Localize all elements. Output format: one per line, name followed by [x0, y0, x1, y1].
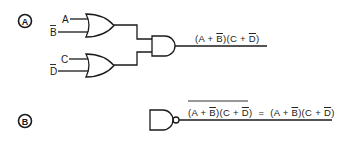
logic-diagram: A B A B C D (A + B)(C + D) (A + B)(C + D… [0, 0, 347, 148]
expr-a-part-1: (A + [195, 33, 216, 44]
expr-b-lhs-part-3: ) [249, 107, 252, 118]
input-label-b-bar: B [50, 27, 57, 38]
and-gate [152, 36, 175, 56]
svg-text:(A + B)(C + D): (A + B)(C + D) [195, 33, 259, 44]
expr-b-rhs-b-bar: B [292, 107, 299, 118]
wire-or2-to-and [114, 52, 152, 65]
nand-gate [150, 110, 173, 130]
expr-b-lhs-d-bar: D [242, 107, 249, 118]
or-gate-1 [86, 14, 114, 37]
input-label-c: C [61, 54, 68, 65]
expr-b-rhs-part-3: ) [331, 107, 334, 118]
expr-b-rhs-part-1: (A + [270, 107, 291, 118]
expr-a-d-bar: D [249, 33, 256, 44]
expr-b-equals: = [258, 107, 264, 118]
expr-a-part-2: )(C + [223, 33, 249, 44]
expr-b-rhs-part-2: )(C + [298, 107, 324, 118]
output-expression-b: (A + B)(C + D) = (A + B)(C + D) [188, 107, 335, 118]
expr-b-lhs-part-2: )(C + [216, 107, 242, 118]
or-gate-2 [86, 54, 114, 77]
input-label-d-bar: D [50, 66, 57, 77]
output-expression-a: (A + B)(C + D) [195, 33, 259, 44]
expr-b-lhs-b-bar: B [209, 107, 216, 118]
expr-b-rhs-d-bar: D [324, 107, 331, 118]
expr-a-part-3: ) [256, 33, 259, 44]
wire-or1-to-and [114, 25, 152, 39]
part-b-label: B [22, 117, 29, 127]
input-label-a: A [62, 14, 69, 25]
expr-b-lhs-part-1: (A + [188, 107, 209, 118]
nand-bubble [173, 117, 179, 123]
part-a-label: A [22, 17, 29, 27]
expr-a-b-bar: B [216, 33, 223, 44]
svg-text:(A + B)(C + D) = (: (A + B)(C + D) = (A + B)(C + D) [188, 107, 335, 118]
